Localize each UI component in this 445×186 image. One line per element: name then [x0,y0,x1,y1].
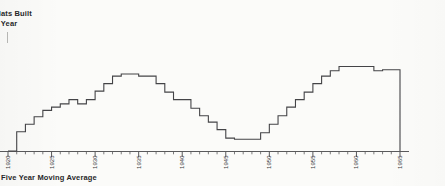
chart-page: Flats Built h Year 192019251930193519401… [0,0,445,186]
x-axis-ticks [8,152,400,158]
chart-svg [0,0,445,160]
data-series-line [8,66,400,151]
chart-plot-area [0,0,445,160]
x-axis-group [0,152,409,158]
chart-caption: Five Year Moving Average [1,173,97,182]
